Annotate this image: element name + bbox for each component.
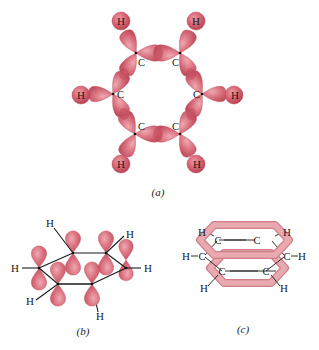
panel-a-sigma-framework: H H H H H H C C C C C C (a) (72, 12, 243, 199)
p-orbital-lobes-back (31, 231, 133, 290)
h-label: H (117, 15, 125, 27)
h-label: H (280, 282, 288, 294)
panel-c-caption: (c) (237, 323, 250, 336)
c-label: C (218, 266, 225, 277)
h-label: H (144, 262, 152, 274)
h-label: H (193, 158, 201, 170)
c-label: C (262, 266, 269, 277)
c-label: C (117, 89, 124, 100)
panel-b-p-orbitals: H H H H H H (b) (11, 217, 152, 338)
c-label: C (138, 121, 145, 132)
c-label: C (172, 121, 179, 132)
h-label: H (126, 228, 134, 240)
h-label: H (46, 217, 54, 229)
h-label: H (231, 89, 239, 101)
c-label: C (193, 89, 200, 100)
c-label: C (198, 251, 205, 262)
h-label: H (283, 226, 291, 238)
h-label: H (198, 226, 206, 238)
h-label: H (26, 295, 34, 307)
h-label: H (200, 282, 208, 294)
h-label: H (11, 262, 19, 274)
h-label: H (96, 310, 104, 322)
c-label: C (138, 57, 145, 68)
h-label: H (298, 250, 306, 262)
benzene-orbital-figure: H H H H H H C C C C C C (a) (0, 0, 319, 350)
c-label: C (214, 235, 221, 246)
h-label: H (182, 250, 190, 262)
c-label: C (283, 251, 290, 262)
panel-c-pi-clouds: C C C C C C H H H H H H (c) (182, 225, 306, 336)
c-label: C (253, 235, 260, 246)
c-label: C (172, 57, 179, 68)
panel-a-caption: (a) (152, 186, 165, 199)
panel-b-caption: (b) (77, 325, 90, 338)
h-label: H (192, 15, 200, 27)
h-label: H (77, 89, 85, 101)
h-label: H (117, 158, 125, 170)
